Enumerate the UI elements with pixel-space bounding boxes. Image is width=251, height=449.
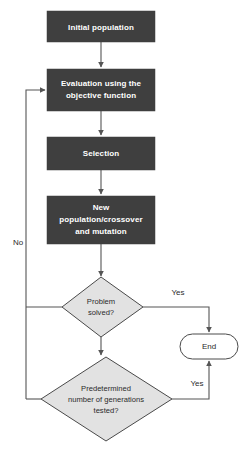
problem-solved-label-line1: Problem [87, 297, 115, 306]
edge-label-yes-generations-tested: Yes [190, 379, 203, 388]
evaluation-label-line2: objective function [66, 91, 136, 100]
edge-feedback-rail-to-evaluation [26, 90, 45, 399]
edge-label-no: No [13, 238, 24, 247]
initial-population-label: Initial population [68, 23, 134, 32]
edge-problem-solved-yes-to-end [143, 307, 209, 332]
node-selection[interactable]: Selection [47, 137, 155, 170]
evaluation-box[interactable] [47, 69, 155, 111]
problem-solved-label-line2: solved? [88, 308, 114, 317]
node-end[interactable]: End [180, 334, 238, 359]
generations-tested-label-line3: tested? [94, 406, 119, 415]
generations-tested-label-line1: Predetermined [81, 384, 131, 393]
end-label: End [202, 342, 216, 351]
node-evaluation[interactable]: Evaluation using the objective function [47, 69, 155, 111]
edge-label-yes-problem-solved: Yes [171, 288, 184, 297]
node-initial-population[interactable]: Initial population [47, 11, 155, 42]
new-population-label-line3: and mutation [75, 227, 126, 236]
generations-tested-label-line2: number of generations [68, 395, 144, 404]
new-population-label-line1: New [93, 203, 110, 212]
evaluation-label-line1: Evaluation using the [61, 79, 142, 88]
problem-solved-diamond[interactable] [62, 277, 143, 337]
node-generations-tested[interactable]: Predetermined number of generations test… [41, 357, 172, 441]
new-population-label-line2: population/crossover [59, 215, 142, 224]
flowchart-canvas: Initial population Evaluation using the … [0, 0, 251, 449]
node-new-population[interactable]: New population/crossover and mutation [47, 196, 155, 244]
node-problem-solved[interactable]: Problem solved? [62, 277, 143, 337]
selection-label: Selection [83, 149, 119, 158]
